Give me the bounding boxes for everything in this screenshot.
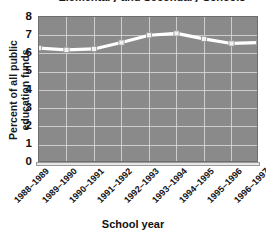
x-axis-tick-labels: 1988–19891989–19901990–19911991–19921992… bbox=[0, 0, 266, 234]
chart-container: Elementary and Secondary Schools Percent… bbox=[0, 0, 266, 234]
x-axis-title: School year bbox=[0, 218, 266, 230]
